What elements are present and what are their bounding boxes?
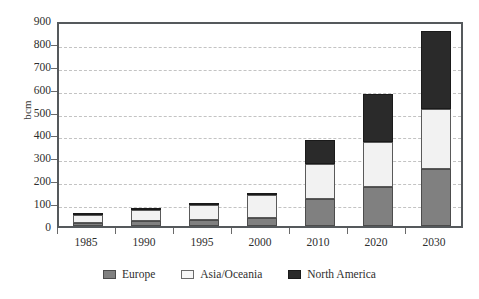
europe-swatch: [103, 270, 116, 279]
x-axis-tick-label: 1985: [56, 236, 116, 248]
x-axis-tick-mark: [115, 228, 116, 234]
bar-segment-asia-oceania[interactable]: [189, 205, 219, 220]
bar-segment-europe[interactable]: [131, 221, 161, 226]
x-axis-tick-mark: [57, 228, 58, 234]
y-axis-tick-label: 300: [10, 152, 51, 164]
north-america-swatch: [288, 270, 301, 279]
bar-segment-north-america[interactable]: [305, 140, 335, 164]
x-axis-tick-label: 1990: [114, 236, 174, 248]
bar-segment-europe[interactable]: [421, 169, 451, 226]
legend-item-europe[interactable]: Europe: [103, 268, 155, 280]
y-axis-tick-label: 900: [10, 15, 51, 27]
bar-segment-north-america[interactable]: [247, 193, 277, 195]
stacked-bar-chart: bcm 0100200300400500600700800900 1985199…: [0, 0, 479, 299]
bar-segment-asia-oceania[interactable]: [131, 210, 161, 221]
bar-segment-asia-oceania[interactable]: [73, 215, 103, 223]
bar-2020[interactable]: [363, 20, 393, 226]
bar-segment-asia-oceania[interactable]: [363, 142, 393, 187]
y-axis-tick-label: 600: [10, 84, 51, 96]
bar-1985[interactable]: [73, 20, 103, 226]
bar-1990[interactable]: [131, 20, 161, 226]
y-axis-tick-label: 400: [10, 129, 51, 141]
legend-label: North America: [307, 268, 376, 280]
bar-segment-asia-oceania[interactable]: [247, 195, 277, 218]
bar-segment-europe[interactable]: [247, 218, 277, 226]
bar-segment-north-america[interactable]: [363, 94, 393, 142]
bar-segment-europe[interactable]: [363, 187, 393, 226]
bar-1995[interactable]: [189, 20, 219, 226]
legend-item-asia-oceania[interactable]: Asia/Oceania: [181, 268, 262, 280]
legend-label: Europe: [122, 268, 155, 280]
x-axis-tick-mark: [173, 228, 174, 234]
x-axis-tick-label: 2020: [346, 236, 406, 248]
bar-segment-north-america[interactable]: [73, 213, 103, 215]
bar-segment-north-america[interactable]: [189, 203, 219, 205]
y-axis-tick-label: 0: [10, 221, 51, 233]
y-axis-tick-label: 700: [10, 61, 51, 73]
x-axis-tick-mark: [405, 228, 406, 234]
legend-item-north-america[interactable]: North America: [288, 268, 376, 280]
plot-area: [57, 22, 463, 228]
x-axis-tick-label: 2010: [288, 236, 348, 248]
bar-segment-europe[interactable]: [73, 223, 103, 226]
bar-segment-asia-oceania[interactable]: [305, 164, 335, 199]
x-axis-tick-mark: [289, 228, 290, 234]
bar-segment-north-america[interactable]: [421, 31, 451, 109]
x-axis-tick-label: 1995: [172, 236, 232, 248]
bar-segment-north-america[interactable]: [131, 208, 161, 210]
y-axis-tick-label: 500: [10, 107, 51, 119]
y-axis-tick-label: 200: [10, 175, 51, 187]
bar-2030[interactable]: [421, 20, 451, 226]
x-axis-tick-label: 2000: [230, 236, 290, 248]
x-axis-tick-label: 2030: [404, 236, 464, 248]
y-axis-tick-label: 100: [10, 198, 51, 210]
bar-2010[interactable]: [305, 20, 335, 226]
x-axis-tick-mark: [231, 228, 232, 234]
y-axis-tick-label: 800: [10, 38, 51, 50]
bar-segment-europe[interactable]: [189, 220, 219, 226]
legend-label: Asia/Oceania: [200, 268, 262, 280]
bar-segment-europe[interactable]: [305, 199, 335, 226]
asia-oceania-swatch: [181, 270, 194, 279]
chart-legend: EuropeAsia/OceaniaNorth America: [0, 268, 479, 280]
bar-2000[interactable]: [247, 20, 277, 226]
x-axis-tick-mark: [347, 228, 348, 234]
bar-segment-asia-oceania[interactable]: [421, 109, 451, 169]
